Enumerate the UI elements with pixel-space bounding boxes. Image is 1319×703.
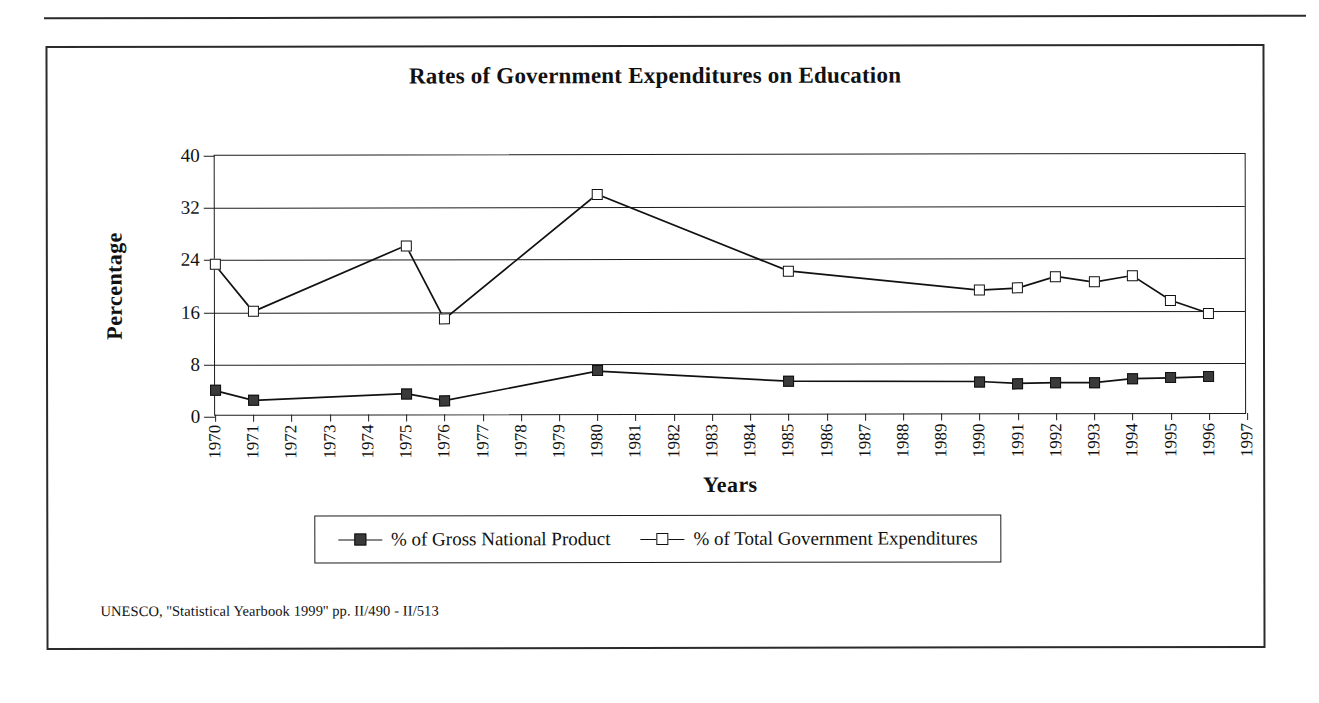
x-tick-label: 1997 [1237,423,1257,457]
y-tick-label: 40 [181,145,200,167]
legend-entry: % of Gross National Product [338,528,611,550]
series-line-1 [215,193,1209,319]
data-point-marker [248,306,259,317]
x-tick-label: 1987 [855,424,875,458]
data-point-marker [439,395,450,406]
y-axis-title: Percentage [100,155,130,416]
plot-wrapper: Percentage 0816243240 197019711972197319… [47,46,1263,648]
data-point-marker [400,240,411,251]
x-tick-label: 1989 [931,423,951,457]
x-tick-label: 1995 [1161,423,1181,457]
x-tick-label: 1980 [587,424,607,458]
data-point-marker [1165,295,1176,306]
x-tick-mark [1247,413,1248,420]
x-tick-label: 1994 [1122,423,1142,457]
y-axis-title-label: Percentage [102,232,128,339]
data-point-marker [1127,270,1138,281]
data-point-marker [783,376,794,387]
data-point-marker [248,395,259,406]
data-point-marker [1203,308,1214,319]
legend-marker-icon [338,532,382,546]
filled-square-icon [354,534,366,546]
data-point-marker [1012,378,1023,389]
x-tick-label: 1991 [1008,423,1028,457]
x-tick-label: 1986 [817,424,837,458]
x-axis-title: Years [214,471,1246,499]
y-tick-mark [204,312,215,313]
legend-label: % of Total Government Expenditures [693,527,977,549]
x-tick-label: 1983 [702,424,722,458]
data-point-marker [974,285,985,296]
y-tick-mark [204,208,215,209]
y-tick-label: 8 [191,354,201,376]
data-point-marker [592,366,603,377]
y-tick-mark [204,365,215,366]
x-tick-label: 1985 [778,424,798,458]
data-point-marker [974,376,985,387]
x-tick-label: 1970 [205,425,225,459]
x-tick-label: 1984 [740,424,760,458]
x-tick-label: 1972 [282,425,302,459]
y-tick-label: 24 [181,249,200,271]
x-tick-label: 1979 [549,424,569,458]
x-tick-label: 1971 [243,425,263,459]
legend-marker-icon [640,532,684,546]
data-point-marker [1203,371,1214,382]
y-tick-label: 16 [181,301,200,323]
legend-label: % of Gross National Product [391,528,611,550]
data-point-marker [1089,377,1100,388]
page-top-rule [44,15,1306,20]
y-tick-mark [204,417,215,418]
y-tick-label: 0 [191,406,201,428]
source-note: UNESCO, ''Statistical Yearbook 1999'' pp… [100,602,438,620]
open-square-icon [656,533,668,545]
x-tick-label: 1973 [320,425,340,459]
y-tick-label: 32 [181,197,200,219]
x-tick-label: 1990 [970,423,990,457]
x-tick-label: 1988 [893,424,913,458]
x-tick-label: 1976 [434,424,454,458]
x-tick-label: 1977 [473,424,493,458]
data-point-marker [1088,277,1099,288]
plot-area: 0816243240 19701971197219731974197519761… [214,153,1246,416]
data-point-marker [401,388,412,399]
figure-frame: Rates of Government Expenditures on Educ… [45,44,1265,650]
data-point-marker [591,189,602,200]
x-tick-label: 1978 [511,424,531,458]
chart-legend: % of Gross National Product% of Total Go… [314,514,1001,563]
x-tick-label: 1982 [664,424,684,458]
data-point-marker [210,385,221,396]
x-tick-label: 1996 [1199,423,1219,457]
x-tick-label: 1974 [358,424,378,458]
x-tick-label: 1975 [396,424,416,458]
data-point-marker [783,265,794,276]
data-point-marker [1050,271,1061,282]
data-point-marker [1127,373,1138,384]
data-point-marker [209,259,220,270]
x-tick-label: 1993 [1084,423,1104,457]
legend-entry: % of Total Government Expenditures [640,527,977,550]
x-tick-label: 1992 [1046,423,1066,457]
data-point-marker [439,314,450,325]
data-point-marker [1050,377,1061,388]
x-tick-label: 1981 [626,424,646,458]
data-point-marker [1165,372,1176,383]
data-point-marker [1012,283,1023,294]
y-tick-mark [204,156,215,157]
